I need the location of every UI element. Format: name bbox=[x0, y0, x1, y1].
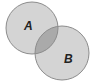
set-a-label: A bbox=[23, 19, 33, 33]
set-b-label: B bbox=[64, 52, 73, 66]
venn-diagram: A B bbox=[0, 0, 91, 82]
